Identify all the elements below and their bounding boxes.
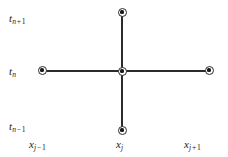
stencil-node-left xyxy=(38,66,47,75)
stencil-node-center xyxy=(118,67,127,76)
label-t-n-minus-1-subnum: 1 xyxy=(22,125,26,134)
label-t-n-minus-1: tn−1 xyxy=(9,121,26,132)
label-t-n-subvar: n xyxy=(12,70,16,79)
label-t-n-plus-1-subnum: 1 xyxy=(22,17,26,26)
label-t-n-plus-1: tn+1 xyxy=(9,13,26,24)
label-x-j-minus-1-subnum: 1 xyxy=(42,143,46,152)
stencil-node-top xyxy=(118,8,127,17)
label-x-j-plus-1-subnum: 1 xyxy=(197,143,201,152)
label-t-n: tn xyxy=(9,66,16,77)
label-x-j: xj xyxy=(116,139,123,150)
stencil-figure: tn+1 tn tn−1 xj−1 xj xj+1 xyxy=(0,0,228,157)
stencil-node-right xyxy=(205,66,214,75)
label-x-j-subvar: j xyxy=(121,143,123,152)
label-x-j-plus-1: xj+1 xyxy=(184,139,201,150)
stencil-node-bottom xyxy=(118,126,127,135)
label-x-j-minus-1: xj−1 xyxy=(29,139,46,150)
